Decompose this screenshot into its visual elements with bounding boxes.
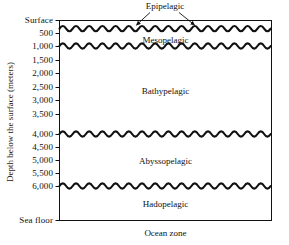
zone-label-abyssopelagic: Abyssopelagic <box>59 157 272 166</box>
zone-label-mesopelagic: Mesopelagic <box>59 36 272 45</box>
ocean-zone-depth-figure: Epipelagic Surface 500 1,000 1,500 2,000… <box>0 0 289 245</box>
zone-label-hadopelagic: Hadopelagic <box>59 200 272 209</box>
y-axis-title-container: Depth below the surface (meters) <box>0 0 16 245</box>
x-axis-title: Ocean zone <box>59 229 272 238</box>
zone-label-epipelagic: Epipelagic <box>132 2 198 11</box>
y-axis-tick-marks <box>56 21 60 221</box>
y-axis-title: Depth below the surface (meters) <box>5 42 15 202</box>
zone-label-bathypelagic: Bathypelagic <box>59 87 272 96</box>
plot-area-border <box>60 21 272 221</box>
